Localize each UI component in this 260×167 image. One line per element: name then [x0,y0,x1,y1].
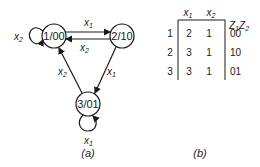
edge-1-to-2-label: x1 [83,17,93,29]
edge-1-self-loop-label: x2 [13,31,23,43]
row-state: 3 [167,66,173,77]
cell-output: 10 [230,47,242,58]
caption-a: (a) [81,147,95,159]
state-diagram-figure: 1/00 2/10 3/01 x1 x2 x2 x1 x2 x1 (a) x1 … [0,0,260,167]
state-1-label: 1/00 [43,30,64,42]
cell-x1: 2 [186,28,192,39]
edge-3-self-loop-label: x1 [83,135,93,147]
cell-x1: 3 [186,66,192,77]
state-table: x1 x2 Z1Z2 1 2 1 00 2 3 1 10 3 3 1 01 (b… [167,7,249,159]
edge-1-self-loop [29,28,43,44]
state-3-label: 3/01 [77,98,98,110]
edge-2-to-3 [95,47,116,93]
cell-output: 01 [230,66,242,77]
row-state: 1 [167,28,173,39]
edge-3-self-loop [79,115,96,131]
row-state: 2 [167,47,173,58]
cell-x2: 1 [206,47,212,58]
caption-b: (b) [193,147,207,159]
cell-output: 00 [230,28,242,39]
cell-x1: 3 [186,47,192,58]
col-header-x1: x1 [183,7,193,19]
edge-2-to-3-label: x1 [106,66,116,78]
state-diagram: 1/00 2/10 3/01 x1 x2 x2 x1 x2 x1 (a) [13,17,134,159]
edge-2-to-1-label: x2 [79,42,89,54]
cell-x2: 1 [206,28,212,39]
state-2-label: 2/10 [111,30,132,42]
cell-x2: 1 [206,66,212,77]
edge-3-to-1-label: x2 [57,66,67,78]
col-header-x2: x2 [206,7,216,19]
